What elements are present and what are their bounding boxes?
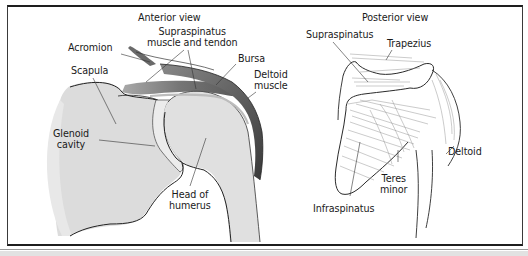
label-deltoid-line2: muscle <box>254 81 288 92</box>
label-supraspinatus-posterior: Supraspinatus <box>306 30 373 41</box>
label-deltoid-line1: Deltoid <box>254 70 288 81</box>
label-teres-minor: Teres minor <box>380 174 407 195</box>
label-supraspinatus-line2: muscle and tendon <box>147 38 238 49</box>
label-bursa: Bursa <box>238 54 265 65</box>
label-glenoid-line2: cavity <box>53 140 89 151</box>
anterior-view-title: Anterior view <box>138 13 201 24</box>
label-deltoid-posterior: Deltoid <box>448 147 482 158</box>
label-glenoid-cavity: Glenoid cavity <box>53 129 89 150</box>
label-infraspinatus: Infraspinatus <box>313 204 374 215</box>
label-supraspinatus-line1: Supraspinatus <box>147 27 238 38</box>
label-supraspinatus-anterior: Supraspinatus muscle and tendon <box>147 27 238 48</box>
label-humerus-line1: Head of <box>169 190 211 201</box>
label-acromion: Acromion <box>68 43 112 54</box>
label-humerus-line2: humerus <box>169 201 211 212</box>
label-deltoid-muscle: Deltoid muscle <box>254 70 288 91</box>
label-teres-line2: minor <box>380 185 407 196</box>
label-glenoid-line1: Glenoid <box>53 129 89 140</box>
label-trapezius: Trapezius <box>387 39 431 50</box>
label-scapula: Scapula <box>71 66 108 77</box>
label-teres-line1: Teres <box>380 174 407 185</box>
label-head-of-humerus: Head of humerus <box>169 190 211 211</box>
posterior-view-title: Posterior view <box>362 13 428 24</box>
